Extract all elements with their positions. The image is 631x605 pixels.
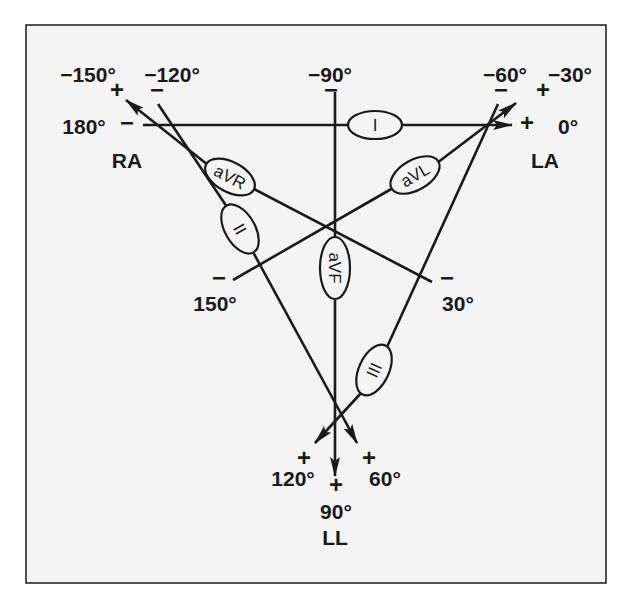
angle-neg30: −30° (548, 63, 592, 86)
angle-neg120: −120° (144, 63, 200, 86)
angle-90: 90° (320, 500, 352, 523)
angle-neg150: −150° (60, 63, 116, 86)
avr-minus-sign: − (440, 264, 454, 291)
i-minus-sign: − (120, 109, 134, 136)
avf-plus-sign: + (329, 471, 343, 498)
lead-avf-label: aVF (325, 252, 344, 283)
lead-i-label: I (373, 116, 378, 135)
avl-minus-sign: − (212, 264, 226, 291)
angle-neg60: −60° (483, 63, 527, 86)
angle-30: 30° (442, 292, 474, 315)
lead-i-badge: I (348, 111, 402, 139)
angle-0: 0° (558, 115, 578, 138)
lead-avf-badge: aVF (320, 237, 350, 299)
angle-150: 150° (193, 292, 236, 315)
hexaxial-diagram: I aVR aVL II aVF III + − − − − + + − − +… (0, 0, 631, 605)
angle-120: 120° (271, 467, 314, 490)
i-plus-sign: + (520, 109, 534, 136)
angle-neg90: −90° (308, 63, 352, 86)
electrode-ra-label: RA (112, 149, 142, 172)
angle-60: 60° (369, 467, 401, 490)
electrode-la-label: LA (531, 149, 559, 172)
electrode-ll-label: LL (322, 526, 348, 549)
angle-180: 180° (62, 115, 105, 138)
